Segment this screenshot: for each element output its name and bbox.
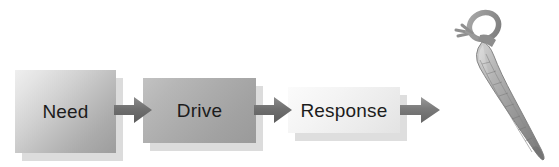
drive-box[interactable]: Drive <box>143 78 256 143</box>
need-box[interactable]: Need <box>15 70 116 153</box>
response-box-label: Response <box>300 101 387 120</box>
need-box-label: Need <box>42 102 88 121</box>
response-box[interactable]: Response <box>288 87 400 133</box>
arrow-response-to-carrot-icon <box>400 96 440 124</box>
arrow-drive-to-response-icon <box>254 96 292 124</box>
flow-diagram: Need Drive Response <box>0 0 559 167</box>
arrow-need-to-drive-icon <box>114 96 152 124</box>
drive-box-label: Drive <box>177 101 222 120</box>
carrot-icon <box>436 2 559 167</box>
